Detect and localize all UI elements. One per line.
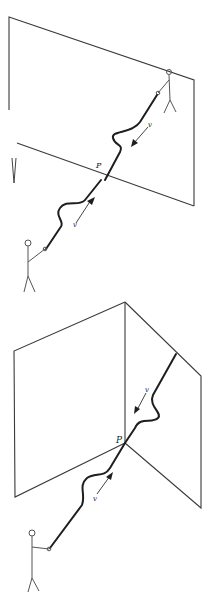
bottom-panel: v v P (14, 302, 201, 592)
person-head (29, 530, 35, 536)
stray-mark (12, 158, 16, 183)
person-head (25, 240, 31, 246)
bottom-velocity-label-2: v (93, 495, 97, 503)
top-velocity-label-2: v (73, 221, 77, 229)
bottom-right-plane (125, 302, 201, 508)
bottom-string-lower (50, 443, 125, 548)
bottom-string-upper (125, 354, 176, 443)
top-near-person (24, 240, 47, 292)
top-velocity-arrow-down (131, 127, 148, 147)
top-string-lower (46, 180, 101, 249)
bottom-velocity-arrow-down (134, 393, 146, 414)
bottom-velocity-label-1: v (145, 386, 149, 394)
bottom-point-label: P (115, 435, 123, 445)
top-panel: v v P (9, 17, 194, 292)
top-plane-outline (9, 17, 194, 206)
top-point-label: P (95, 161, 102, 170)
top-string-upper (105, 95, 157, 180)
bottom-left-plane (14, 302, 125, 497)
top-far-person (156, 70, 176, 114)
top-velocity-label-1: v (148, 121, 152, 129)
diagram-canvas: v v P (0, 0, 212, 595)
bottom-near-person (28, 530, 51, 592)
top-plane-bottom-edge (17, 143, 194, 206)
